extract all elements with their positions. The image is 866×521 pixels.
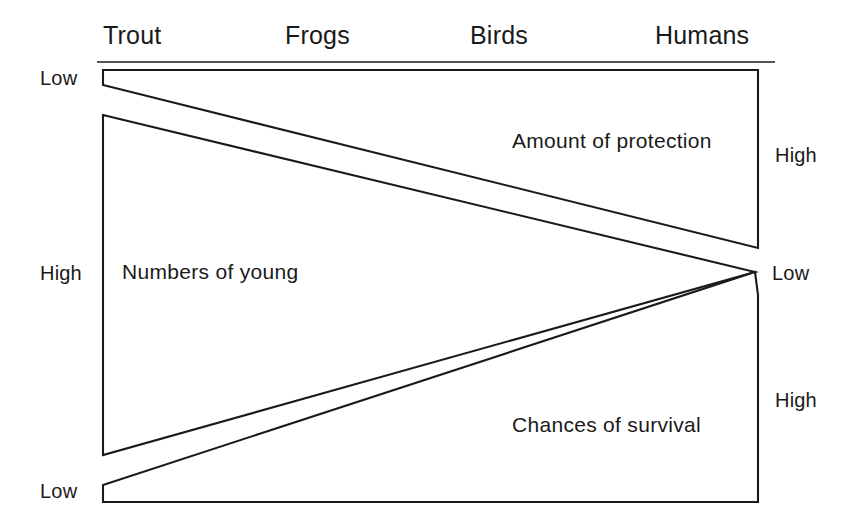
axis-label-right-low-numbers: Low	[772, 262, 810, 284]
diagram-canvas: Trout Frogs Birds Humans Amount of prote…	[0, 0, 866, 521]
wedge-label-amount-of-protection: Amount of protection	[512, 129, 712, 152]
biology-tradeoff-diagram: Trout Frogs Birds Humans Amount of prote…	[0, 0, 866, 521]
axis-label-left-low-survival: Low	[40, 480, 78, 502]
column-header-birds: Birds	[470, 21, 528, 49]
axis-label-left-low-protection: Low	[40, 67, 78, 89]
axis-label-left-high-numbers: High	[40, 262, 82, 284]
column-header-humans: Humans	[655, 21, 749, 49]
column-header-trout: Trout	[103, 21, 161, 49]
column-header-frogs: Frogs	[285, 21, 350, 49]
wedge-label-chances-of-survival: Chances of survival	[512, 413, 701, 436]
wedge-label-numbers-of-young: Numbers of young	[122, 260, 298, 283]
axis-label-right-high-survival: High	[775, 389, 817, 411]
axis-label-right-high-protection: High	[775, 144, 817, 166]
column-header-group: Trout Frogs Birds Humans	[103, 21, 749, 49]
